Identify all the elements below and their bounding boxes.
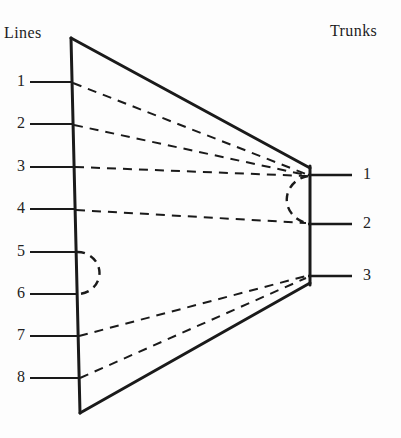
figure-container: Lines Trunks <box>0 0 401 438</box>
trapezoid-top-edge <box>71 38 310 168</box>
trunk-port-stubs <box>308 175 352 276</box>
trunk-port-label-2: 2 <box>358 215 376 231</box>
connection-line4-trunk2 <box>76 210 306 223</box>
connection-paths <box>73 83 306 378</box>
line-port-label-7: 7 <box>12 327 30 343</box>
line-port-label-3: 3 <box>12 158 30 174</box>
trapezoid-bottom-edge <box>80 283 310 413</box>
connection-line8-trunk3 <box>80 278 306 378</box>
line-port-label-5: 5 <box>12 243 30 259</box>
line-port-label-1: 1 <box>12 73 30 89</box>
trunk-port-label-3: 3 <box>358 267 376 283</box>
line-port-label-8: 8 <box>12 369 30 385</box>
connection-line1-trunk1 <box>73 83 306 174</box>
trunk-port-label-1: 1 <box>358 166 376 182</box>
connection-line3-trunk1 <box>75 167 306 176</box>
trapezoid-body <box>71 38 310 413</box>
line-port-label-2: 2 <box>12 115 30 131</box>
line-port-label-4: 4 <box>12 200 30 216</box>
line-side-bus <box>71 38 80 413</box>
concentrator-schematic <box>0 0 401 438</box>
idle-line-pair-arc <box>77 252 99 294</box>
line-port-label-6: 6 <box>12 285 30 301</box>
trunk-pair-arc <box>287 176 308 223</box>
